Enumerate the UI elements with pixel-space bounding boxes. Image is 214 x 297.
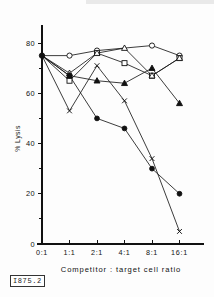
figure-panel: 020406080 0:11:12:14:18:116:1 Competitor… [0,0,214,297]
y-tick-label: 20 [26,189,35,198]
x-tick-label: 0:1 [36,248,48,257]
y-axis-title: % Lysis [14,125,22,152]
x-tick-label: 8:1 [146,248,158,257]
marker-filled-circle [67,73,72,78]
series-lines [42,46,180,232]
y-tick-label: 60 [26,89,35,98]
series-markers [39,43,182,234]
x-axis-tick-labels: 0:11:12:14:18:116:1 [36,248,188,257]
marker-filled-triangle [149,65,155,70]
x-tick-label: 2:1 [91,248,103,257]
x-axis-ticks [42,240,180,245]
y-axis-tick-labels: 020406080 [26,39,35,249]
marker-origin-converge [39,53,44,58]
marker-filled-circle [122,126,127,131]
marker-open-square [67,78,72,83]
line-chart: 020406080 0:11:12:14:18:116:1 Competitor… [0,0,214,297]
y-tick-label: 80 [26,39,35,48]
y-tick-label: 0 [30,240,35,249]
x-tick-label: 1:1 [63,248,75,257]
x-tick-label: 4:1 [118,248,130,257]
marker-open-circle [67,53,72,58]
marker-filled-circle [177,191,182,196]
x-tick-label: 16:1 [171,248,188,257]
marker-open-square [122,61,127,66]
marker-filled-circle [95,116,100,121]
figure-stamp-label: I875.2 [10,275,45,287]
y-tick-label: 40 [26,139,35,148]
x-axis-title: Competitor : target cell ratio [61,265,181,274]
marker-filled-circle [150,166,155,171]
marker-open-circle [149,43,154,48]
y-axis-ticks [38,43,43,244]
series-line-open-triangle [42,48,180,76]
